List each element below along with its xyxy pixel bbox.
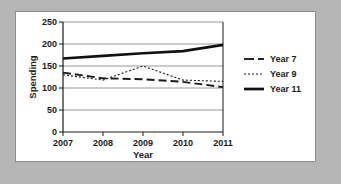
series-year-7 — [63, 73, 223, 88]
x-tick-marks — [63, 132, 223, 136]
y-tick-label: 200 — [42, 39, 57, 49]
y-tick-label: 150 — [42, 61, 57, 71]
x-tick-label: 2007 — [53, 138, 73, 148]
x-tick-labels: 2007 2008 2009 2010 2011 — [53, 138, 233, 148]
y-axis-title: Spending — [27, 55, 38, 98]
y-tick-label: 100 — [42, 83, 57, 93]
line-chart: 0 50 100 150 200 250 2007 2008 2009 2010… — [16, 12, 315, 161]
series-year-9 — [63, 66, 223, 81]
y-tick-label: 50 — [47, 105, 57, 115]
x-tick-label: 2009 — [133, 138, 153, 148]
legend-label-year-9: Year 9 — [270, 69, 297, 79]
legend-label-year-7: Year 7 — [270, 54, 297, 64]
axis-lines — [63, 22, 223, 132]
series-year-11 — [63, 45, 223, 59]
y-tick-label: 250 — [42, 17, 57, 27]
x-tick-label: 2010 — [173, 138, 193, 148]
x-tick-label: 2011 — [213, 138, 233, 148]
y-tick-label: 0 — [52, 127, 57, 137]
legend: Year 7 Year 9 Year 11 — [244, 54, 301, 94]
x-tick-label: 2008 — [93, 138, 113, 148]
y-tick-labels: 0 50 100 150 200 250 — [42, 17, 57, 137]
legend-label-year-11: Year 11 — [270, 84, 301, 94]
chart-panel: 0 50 100 150 200 250 2007 2008 2009 2010… — [15, 11, 316, 162]
gridlines — [63, 22, 223, 110]
x-axis-title: Year — [133, 149, 153, 160]
